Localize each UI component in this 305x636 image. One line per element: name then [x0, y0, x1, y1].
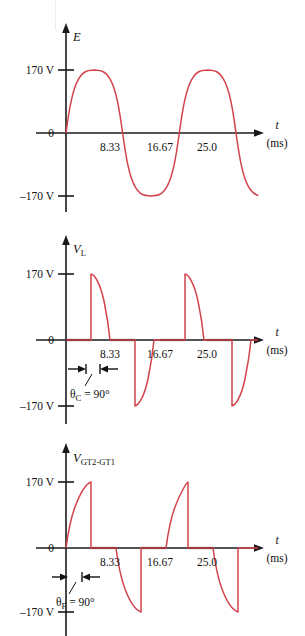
y-axis-arrowhead [62, 23, 70, 33]
x-tick-label-3: 25.0 [197, 141, 217, 153]
chart-panel-e: 170 V 0 –170 V E 8.33 16.67 25.0 t (ms) [0, 0, 305, 212]
signal-subscript: L [81, 248, 86, 258]
signal-label-vl: VL [73, 242, 86, 258]
angle-span-arrows [52, 572, 100, 582]
chart-svg-vl: 170 V 0 –170 V VL 8.33 16.67 25.0 t (ms)… [0, 212, 305, 424]
x-axis-var-label: t [275, 119, 279, 131]
chart-svg-e: 170 V 0 –170 V E 8.33 16.67 25.0 t (ms) [0, 0, 305, 212]
x-axis-unit-label: (ms) [266, 137, 287, 150]
y-label-positive: 170 V [26, 64, 55, 76]
angle-value: = 90° [81, 388, 110, 400]
x-tick-label-3: 25.0 [197, 556, 217, 568]
signal-label-e: E [72, 30, 81, 44]
x-axis-var-label: t [275, 534, 279, 546]
y-label-positive: 170 V [26, 268, 55, 280]
y-label-negative: –170 V [19, 400, 55, 412]
x-tick-label-2: 16.67 [147, 556, 173, 568]
x-axis-arrowhead [254, 129, 264, 137]
angle-label-thetaf: θF = 90° [56, 596, 95, 611]
x-tick-label-1: 8.33 [100, 141, 120, 153]
y-label-negative: –170 V [19, 606, 55, 618]
y-label-zero: 0 [48, 127, 54, 139]
signal-label-vgt: VGT2-GT1 [73, 451, 115, 467]
x-axis-var-label: t [275, 326, 279, 338]
chart-panel-vl: 170 V 0 –170 V VL 8.33 16.67 25.0 t (ms)… [0, 212, 305, 424]
x-tick-label-3: 25.0 [197, 348, 217, 360]
y-label-zero: 0 [48, 542, 54, 554]
y-label-zero: 0 [48, 334, 54, 346]
x-axis-unit-label: (ms) [266, 344, 287, 357]
chart-panel-vgt: 170 V 0 –170 V VGT2-GT1 8.33 16.67 25.0 … [0, 424, 305, 636]
signal-subscript: GT2-GT1 [81, 457, 115, 467]
angle-label-thetac: θC = 90° [70, 388, 110, 403]
x-tick-label-2: 16.67 [147, 348, 173, 360]
y-label-negative: –170 V [19, 190, 55, 202]
x-tick-label-1: 8.33 [100, 348, 120, 360]
y-axis-arrowhead [62, 235, 70, 245]
angle-value: = 90° [66, 596, 95, 608]
angle-leader-line [69, 582, 76, 594]
y-axis-arrowhead [62, 443, 70, 453]
x-axis-unit-label: (ms) [266, 552, 287, 565]
x-tick-label-2: 16.67 [147, 141, 173, 153]
chart-svg-vgt: 170 V 0 –170 V VGT2-GT1 8.33 16.67 25.0 … [0, 424, 305, 636]
angle-leader-line [85, 374, 92, 386]
x-tick-label-1: 8.33 [100, 556, 120, 568]
y-label-positive: 170 V [26, 476, 55, 488]
angle-span-arrows [68, 364, 118, 374]
